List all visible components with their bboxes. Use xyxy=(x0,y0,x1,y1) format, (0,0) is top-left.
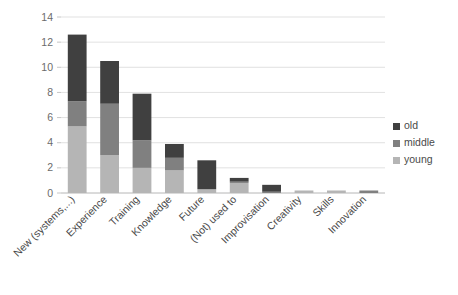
bar-segment-young xyxy=(295,190,314,193)
y-tick-label: 6 xyxy=(47,111,53,123)
bar-segment-middle xyxy=(165,158,184,171)
y-axis-tick-labels: 02468101214 xyxy=(41,11,53,199)
bar-segment-old xyxy=(197,160,216,189)
bar-segment-middle xyxy=(230,182,249,183)
chart-canvas: 02468101214 New (systems,...)ExperienceT… xyxy=(0,0,458,295)
bar-stack xyxy=(100,61,119,193)
bar-segment-young xyxy=(230,183,249,193)
y-tick-label: 0 xyxy=(47,187,53,199)
legend-label: middle xyxy=(404,136,435,148)
legend-swatch xyxy=(393,123,400,130)
stacked-bar-chart: 02468101214 New (systems,...)ExperienceT… xyxy=(0,0,458,295)
bar-segment-young xyxy=(68,126,87,193)
y-tick-label: 8 xyxy=(47,86,53,98)
bar-segment-old xyxy=(68,35,87,102)
legend-label: old xyxy=(404,119,418,131)
bar-stack xyxy=(230,178,249,193)
legend-label: young xyxy=(404,153,433,165)
bar-segment-middle xyxy=(100,104,119,156)
bar-segment-old xyxy=(230,178,249,182)
x-category-label: Skills xyxy=(310,193,336,219)
bar-segment-young xyxy=(327,190,346,193)
bar-segment-old xyxy=(100,61,119,104)
bar-segment-middle xyxy=(68,101,87,126)
bar-series-group xyxy=(68,35,378,193)
bar-segment-middle xyxy=(359,190,378,193)
y-tick-label: 10 xyxy=(41,61,53,73)
bar-stack xyxy=(262,185,281,193)
bar-segment-old xyxy=(165,144,184,158)
bar-stack xyxy=(359,190,378,193)
x-category-label: Future xyxy=(176,193,206,223)
bar-stack xyxy=(295,190,314,193)
bar-segment-old xyxy=(133,94,152,141)
bar-segment-young xyxy=(133,168,152,193)
y-axis-tick-marks xyxy=(57,17,61,193)
bar-stack xyxy=(327,190,346,193)
bar-segment-old xyxy=(262,185,281,192)
bar-segment-middle xyxy=(133,140,152,168)
bar-segment-middle xyxy=(262,192,281,193)
bar-stack xyxy=(165,144,184,193)
legend-swatch xyxy=(393,140,400,147)
y-tick-label: 12 xyxy=(41,36,53,48)
bar-segment-young xyxy=(197,189,216,193)
bar-segment-young xyxy=(165,170,184,193)
y-tick-label: 4 xyxy=(47,136,53,148)
x-axis-category-labels: New (systems,...)ExperienceTrainingKnowl… xyxy=(11,192,369,258)
bar-stack xyxy=(133,94,152,193)
bar-stack xyxy=(197,160,216,193)
chart-legend: oldmiddleyoung xyxy=(393,119,435,165)
x-category-label: Creativity xyxy=(264,192,304,232)
y-tick-label: 2 xyxy=(47,161,53,173)
bar-stack xyxy=(68,35,87,193)
legend-swatch xyxy=(393,157,400,164)
bar-segment-young xyxy=(100,155,119,193)
y-tick-label: 14 xyxy=(41,11,53,23)
